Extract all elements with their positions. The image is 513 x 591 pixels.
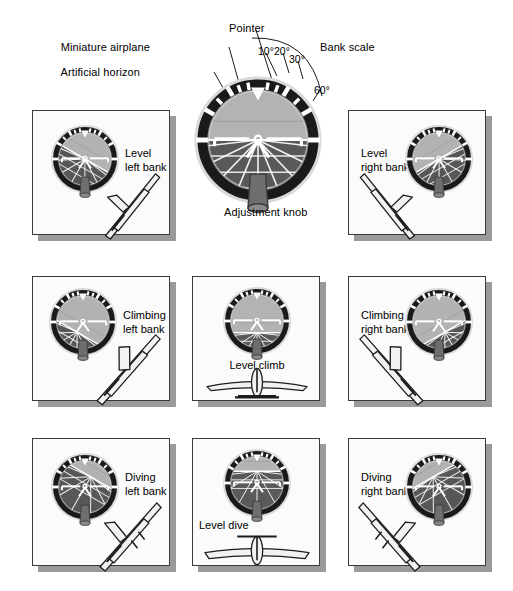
callout-pointer: Pointer bbox=[229, 22, 265, 35]
panel-level-climb[interactable]: Level climb bbox=[192, 276, 320, 401]
panel-art-level-dive bbox=[193, 439, 321, 567]
adjustment-knob bbox=[78, 340, 88, 360]
panel-diving-right-bank[interactable]: Divingright bank bbox=[348, 438, 486, 566]
adjustment-knob bbox=[80, 505, 90, 525]
callout-miniature-airplane: Miniature airplane bbox=[61, 41, 150, 54]
panel-art-climbing-left-bank bbox=[33, 277, 171, 402]
adjustment-knob bbox=[434, 177, 444, 197]
panel-diving-left-bank[interactable]: Divingleft bank bbox=[32, 438, 170, 566]
bank-scale-mark-1: 20° bbox=[274, 45, 290, 57]
bank-scale-mark-2: 30° bbox=[289, 53, 305, 65]
airplane-level-dive bbox=[205, 537, 309, 565]
panel-climbing-right-bank[interactable]: Climbingright bank bbox=[348, 276, 486, 401]
gauge-diving-left-bank bbox=[0, 391, 178, 578]
figure-canvas: Artificial horizonMiniature airplanePoin… bbox=[0, 0, 513, 591]
callout-artificial-horizon: Artificial horizon bbox=[61, 66, 140, 79]
bank-scale-mark-0: 10° bbox=[258, 45, 274, 57]
panel-climbing-left-bank[interactable]: Climbingleft bank bbox=[32, 276, 170, 401]
gauge-sky bbox=[204, 410, 310, 471]
bank-scale-mark-3: 60° bbox=[314, 84, 330, 96]
fuselage bbox=[362, 188, 416, 232]
panel-level-left-bank[interactable]: Levelleft bank bbox=[32, 110, 170, 235]
adjustment-knob bbox=[434, 340, 444, 360]
panel-art-level-left-bank bbox=[33, 111, 171, 236]
panel-level-dive[interactable]: Level dive bbox=[192, 438, 320, 566]
panel-art-level-climb bbox=[193, 277, 321, 402]
panel-level-right-bank[interactable]: Levelright bank bbox=[348, 110, 486, 235]
adjustment-knob bbox=[80, 177, 90, 197]
panel-art-climbing-right-bank bbox=[349, 277, 487, 402]
panel-art-diving-left-bank bbox=[33, 439, 171, 567]
callout-adjustment-knob: Adjustment knob bbox=[224, 206, 307, 219]
callout-bank-scale: Bank scale bbox=[320, 41, 375, 54]
adjustment-knob bbox=[252, 501, 262, 521]
panel-art-level-right-bank bbox=[349, 111, 487, 236]
gauge-level-dive bbox=[192, 410, 323, 550]
panel-art-diving-right-bank bbox=[349, 439, 487, 567]
adjustment-knob bbox=[434, 505, 444, 525]
airplane-level-climb bbox=[207, 369, 307, 398]
adjustment-knob bbox=[252, 339, 262, 359]
gauge-face bbox=[0, 391, 178, 578]
fuselage bbox=[104, 188, 158, 232]
